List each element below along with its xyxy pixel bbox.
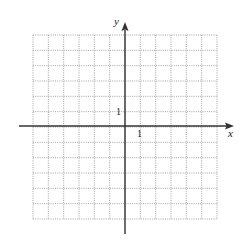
y-tick-label: 1 [116,106,121,117]
coordinate-plane: y x 1 1 [0,0,248,244]
y-axis-label: y [113,15,119,27]
x-axis-label: x [227,127,233,139]
y-axis-arrow-icon [122,22,129,31]
y-axis [122,22,129,234]
x-tick-label: 1 [137,128,142,139]
